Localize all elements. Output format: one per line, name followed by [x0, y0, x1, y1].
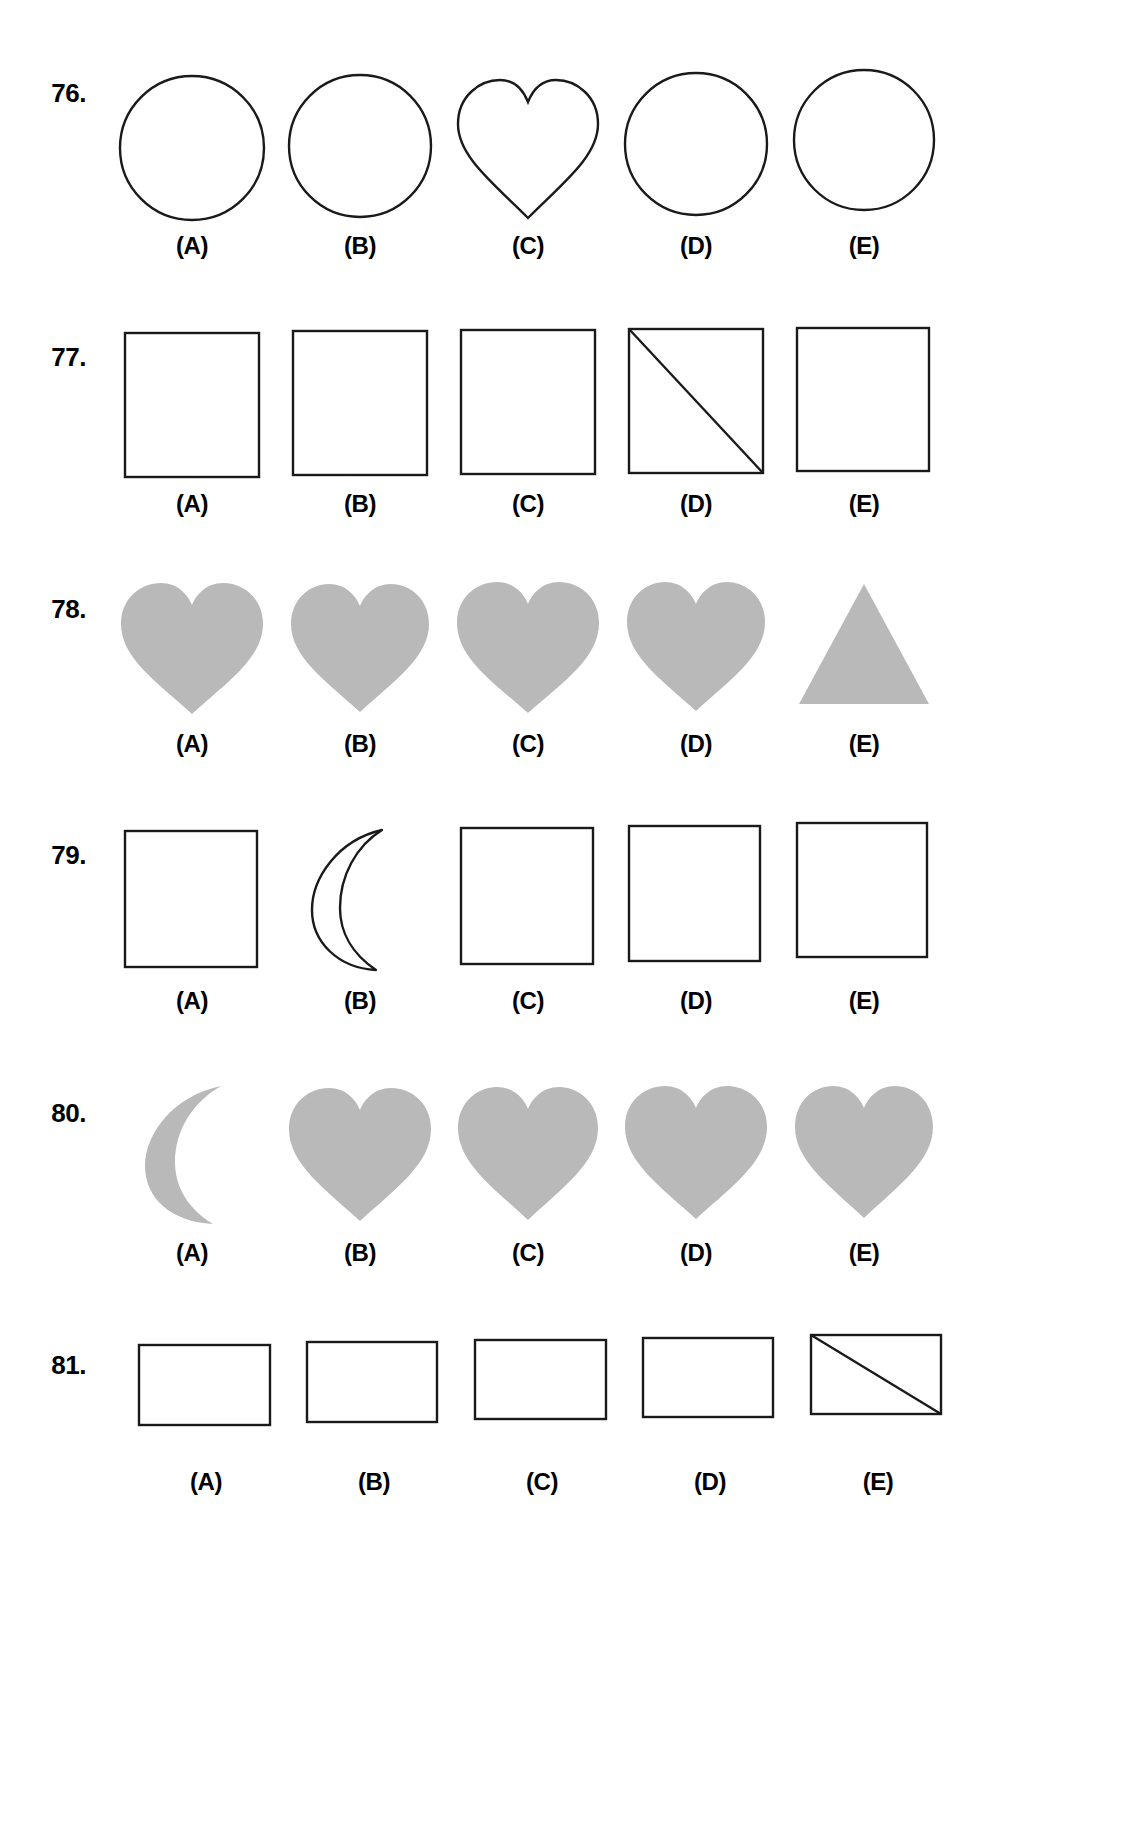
- option-item[interactable]: (C): [458, 1340, 626, 1496]
- option-label: (A): [176, 490, 208, 518]
- option-label: (A): [176, 730, 208, 758]
- option-label: (B): [344, 232, 376, 260]
- heart-icon: [453, 578, 603, 718]
- option-item[interactable]: (A): [108, 72, 276, 260]
- option-item[interactable]: (C): [444, 330, 612, 518]
- square-icon: [122, 828, 262, 973]
- option-item[interactable]: (C): [444, 72, 612, 260]
- option-label: (C): [512, 232, 544, 260]
- square-icon: [794, 828, 934, 973]
- option-label: (B): [344, 987, 376, 1015]
- heart-icon: [452, 72, 604, 224]
- crescent-moon-icon: [117, 1082, 267, 1227]
- option-group: (A) (B) (C) (D): [100, 828, 1128, 1015]
- rectangle-with-diagonal-icon: [808, 1340, 948, 1430]
- question-number: 79.: [0, 828, 100, 871]
- question-row-79: 79. (A) (B) (C): [0, 828, 1128, 1015]
- question-number: 78.: [0, 578, 100, 625]
- option-item[interactable]: (E): [780, 578, 948, 758]
- rectangle-icon: [304, 1340, 444, 1430]
- option-label: (C): [526, 1468, 558, 1496]
- worksheet-page: 76. (A) (B) (C): [0, 0, 1128, 1838]
- square-icon: [794, 330, 934, 480]
- option-label: (A): [176, 232, 208, 260]
- option-item[interactable]: (D): [612, 330, 780, 518]
- option-item[interactable]: (A): [108, 330, 276, 518]
- option-item[interactable]: (D): [612, 828, 780, 1015]
- circle-icon: [284, 72, 436, 224]
- option-label: (D): [680, 490, 712, 518]
- question-row-76: 76. (A) (B) (C): [0, 72, 1128, 260]
- option-label: (B): [344, 1239, 376, 1267]
- option-item[interactable]: (E): [780, 72, 948, 260]
- option-item[interactable]: (B): [276, 72, 444, 260]
- square-icon: [626, 828, 766, 973]
- option-label: (C): [512, 1239, 544, 1267]
- option-item[interactable]: (B): [276, 330, 444, 518]
- option-item[interactable]: (C): [444, 578, 612, 758]
- heart-icon: [285, 578, 435, 718]
- square-icon: [458, 828, 598, 973]
- circle-icon: [788, 72, 940, 224]
- option-item[interactable]: (D): [612, 578, 780, 758]
- option-label: (B): [344, 490, 376, 518]
- rectangle-icon: [640, 1340, 780, 1430]
- heart-icon: [453, 1082, 603, 1227]
- option-label: (E): [863, 1468, 894, 1496]
- option-label: (A): [176, 987, 208, 1015]
- option-item[interactable]: (C): [444, 828, 612, 1015]
- option-label: (C): [512, 730, 544, 758]
- rectangle-icon: [136, 1340, 276, 1430]
- question-row-80: 80. (A) (B): [0, 1082, 1128, 1267]
- option-item[interactable]: (E): [780, 330, 948, 518]
- option-item[interactable]: (D): [612, 72, 780, 260]
- heart-icon: [789, 1082, 939, 1227]
- option-label: (E): [849, 730, 880, 758]
- question-number: 76.: [0, 72, 100, 109]
- option-group: (A) (B) (C) (D): [100, 1340, 1128, 1496]
- option-label: (D): [694, 1468, 726, 1496]
- option-label: (E): [849, 987, 880, 1015]
- option-group: (A) (B) (C): [100, 330, 1128, 518]
- option-item[interactable]: (B): [276, 1082, 444, 1267]
- square-with-diagonal-icon: [626, 330, 766, 480]
- square-icon: [458, 330, 598, 480]
- option-item[interactable]: (D): [612, 1082, 780, 1267]
- option-group: (A) (B) (C): [100, 1082, 1128, 1267]
- option-label: (E): [849, 1239, 880, 1267]
- option-label: (C): [512, 987, 544, 1015]
- option-item[interactable]: (E): [780, 1082, 948, 1267]
- heart-icon: [621, 1082, 771, 1227]
- square-icon: [122, 330, 262, 480]
- heart-icon: [117, 578, 267, 718]
- option-item[interactable]: (A): [108, 1082, 276, 1267]
- option-item[interactable]: (D): [626, 1340, 794, 1496]
- option-label: (D): [680, 232, 712, 260]
- option-label: (E): [849, 490, 880, 518]
- option-group: (A) (B) (C): [100, 578, 1128, 758]
- option-item[interactable]: (B): [290, 1340, 458, 1496]
- square-icon: [290, 330, 430, 480]
- option-label: (D): [680, 987, 712, 1015]
- question-row-78: 78. (A) (B): [0, 578, 1128, 758]
- option-label: (B): [344, 730, 376, 758]
- question-number: 80.: [0, 1082, 100, 1129]
- option-item[interactable]: (A): [108, 578, 276, 758]
- option-label: (B): [358, 1468, 390, 1496]
- option-label: (D): [680, 730, 712, 758]
- crescent-moon-icon: [290, 828, 430, 973]
- heart-icon: [285, 1082, 435, 1227]
- option-label: (D): [680, 1239, 712, 1267]
- option-item[interactable]: (B): [276, 828, 444, 1015]
- circle-icon: [620, 72, 772, 224]
- option-item[interactable]: (E): [780, 828, 948, 1015]
- option-group: (A) (B) (C) (D): [100, 72, 1128, 260]
- option-label: (A): [176, 1239, 208, 1267]
- option-item[interactable]: (A): [108, 828, 276, 1015]
- option-item[interactable]: (B): [276, 578, 444, 758]
- heart-icon: [621, 578, 771, 718]
- option-item[interactable]: (C): [444, 1082, 612, 1267]
- option-item[interactable]: (E): [794, 1340, 962, 1496]
- option-item[interactable]: (A): [122, 1340, 290, 1496]
- question-number: 77.: [0, 330, 100, 373]
